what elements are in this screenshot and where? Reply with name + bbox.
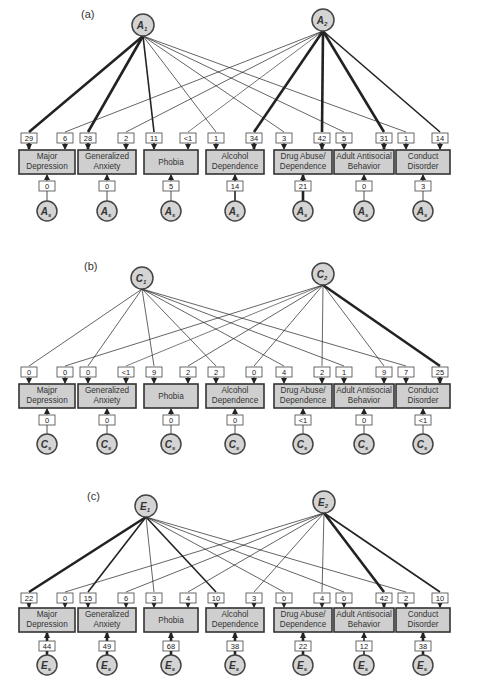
svg-text:2: 2 — [404, 594, 408, 603]
svg-text:4: 4 — [320, 594, 324, 603]
loading-f2-value: 0 — [246, 367, 262, 377]
specific-value: 0 — [99, 181, 115, 191]
svg-text:4: 4 — [186, 594, 190, 603]
svg-text:Majpr: Majpr — [37, 386, 58, 395]
svg-text:14: 14 — [436, 134, 444, 143]
svg-text:25: 25 — [436, 368, 444, 377]
svg-text:Alcohol: Alcohol — [222, 610, 249, 619]
svg-text:Conduct: Conduct — [408, 152, 439, 161]
loading-f1-value: 7 — [398, 367, 414, 377]
svg-text:Adult Antisocial: Adult Antisocial — [336, 386, 392, 395]
path-f1-4 — [146, 517, 284, 592]
path-f2-6 — [323, 31, 440, 132]
svg-text:<1: <1 — [299, 416, 308, 425]
specific-factor-node: As — [293, 201, 313, 221]
svg-text:Drug Abuse/: Drug Abuse/ — [280, 610, 326, 619]
svg-text:Generalized: Generalized — [85, 386, 130, 395]
variable-box: AlcoholDependence — [206, 384, 264, 408]
factor-model-diagram: (a)A1A2296MajorDepression0As282Generaliz… — [0, 0, 477, 676]
factor-1-node: A1 — [132, 14, 154, 36]
svg-text:Depression: Depression — [26, 162, 68, 171]
svg-text:Alcohol: Alcohol — [222, 386, 249, 395]
specific-value: 0 — [227, 415, 243, 425]
svg-text:Conduct: Conduct — [408, 386, 439, 395]
specific-factor-node: As — [225, 201, 245, 221]
svg-text:11: 11 — [150, 134, 158, 143]
specific-factor-node: As — [37, 201, 57, 221]
svg-text:29: 29 — [25, 134, 33, 143]
svg-text:2: 2 — [214, 368, 218, 377]
specific-value: 38 — [227, 641, 243, 651]
specific-value: 0 — [163, 415, 179, 425]
path-f1-4 — [143, 36, 284, 132]
variable-box: MajprDepression — [19, 384, 75, 408]
loading-f2-value: 0 — [57, 593, 73, 603]
svg-text:4: 4 — [282, 368, 286, 377]
loading-f2-value: 2 — [314, 367, 330, 377]
specific-value: 22 — [295, 641, 311, 651]
svg-text:Phobia: Phobia — [158, 158, 184, 167]
loading-f2-value: 3 — [246, 593, 262, 603]
variable-box: GeneralizedAnxiety — [78, 384, 136, 408]
svg-text:3: 3 — [152, 594, 156, 603]
specific-factor-node: Cs — [161, 434, 181, 454]
factor-paths — [29, 513, 440, 655]
svg-text:2: 2 — [320, 368, 324, 377]
svg-text:Major: Major — [37, 610, 58, 619]
path-f2-0 — [65, 285, 323, 366]
specific-value: 38 — [415, 641, 431, 651]
loading-f1-value: 3 — [276, 133, 292, 143]
variable-box: Adult AntisocialBehavior — [334, 384, 394, 408]
variable-box: AlcoholDependence — [206, 150, 264, 174]
specific-value: 0 — [356, 181, 372, 191]
svg-text:10: 10 — [436, 594, 444, 603]
svg-text:0: 0 — [233, 416, 237, 425]
specific-factor-node: Cs — [293, 434, 313, 454]
path-f2-5 — [323, 31, 384, 132]
path-f2-6 — [323, 285, 440, 366]
specific-value: 0 — [39, 415, 55, 425]
svg-text:1: 1 — [404, 134, 408, 143]
svg-text:22: 22 — [299, 642, 307, 651]
panel-label: (a) — [81, 8, 94, 20]
path-f1-5 — [146, 517, 344, 592]
loading-f2-value: 6 — [57, 133, 73, 143]
svg-text:Drug Abuse/: Drug Abuse/ — [280, 386, 326, 395]
svg-text:0: 0 — [63, 368, 67, 377]
svg-text:2: 2 — [186, 368, 190, 377]
svg-text:Dependence: Dependence — [280, 162, 327, 171]
specific-value: 68 — [163, 641, 179, 651]
specific-value: 49 — [99, 641, 115, 651]
specific-factor-node: Es — [97, 655, 117, 675]
loading-f1-value: 0 — [21, 367, 37, 377]
svg-text:2: 2 — [124, 134, 128, 143]
path-f1-1 — [88, 36, 143, 132]
specific-factor-node: Es — [413, 655, 433, 675]
svg-text:5: 5 — [342, 134, 346, 143]
specific-factor-node: Es — [293, 655, 313, 675]
variable-box: ConductDisorder — [396, 608, 450, 632]
path-f2-4 — [322, 513, 324, 592]
svg-text:31: 31 — [380, 134, 388, 143]
svg-text:44: 44 — [43, 642, 51, 651]
specific-factor-node: As — [413, 201, 433, 221]
panel-b: (b)C1C200MajprDepression0Cs0<1Generalize… — [19, 260, 450, 454]
variable-box: Phobia — [144, 150, 198, 174]
panel-label: (c) — [87, 490, 100, 502]
specific-value: 21 — [295, 181, 311, 191]
svg-text:7: 7 — [404, 368, 408, 377]
specific-factor-node: Cs — [37, 434, 57, 454]
svg-text:49: 49 — [103, 642, 111, 651]
loading-f1-value: 1 — [208, 133, 224, 143]
loading-f1-value: 5 — [336, 133, 352, 143]
path-f1-0 — [29, 517, 146, 592]
svg-text:9: 9 — [152, 368, 156, 377]
path-f1-2 — [143, 36, 154, 132]
loading-f2-value: 6 — [118, 593, 134, 603]
svg-text:Behavior: Behavior — [348, 162, 381, 171]
loading-f1-value: 22 — [21, 593, 37, 603]
svg-text:Depression: Depression — [26, 620, 68, 629]
svg-text:0: 0 — [282, 594, 286, 603]
svg-text:Generalized: Generalized — [85, 610, 130, 619]
loading-f2-value: 14 — [432, 133, 448, 143]
